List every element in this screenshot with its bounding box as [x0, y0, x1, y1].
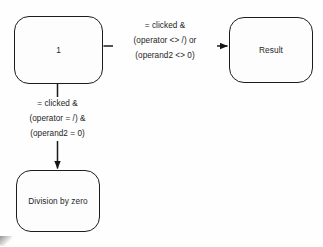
state-node-division-by-zero[interactable]: Division by zero	[16, 170, 100, 232]
state-node-result[interactable]: Result	[229, 17, 313, 83]
guard-to-result-line-1: = clicked &	[113, 19, 217, 34]
guard-to-result-line-3: (operand2 <> 0)	[113, 49, 217, 64]
division-by-zero-line-1: Division by	[28, 196, 69, 206]
state-node-start-label: 1	[56, 45, 61, 56]
state-node-result-label: Result	[259, 45, 283, 56]
guard-to-divzero-line-3: (operand2 = 0)	[6, 127, 109, 142]
transition-guard-to-result: = clicked & (operator <> /) or (operand2…	[113, 19, 217, 63]
transition-guard-to-division-by-zero: = clicked & (operator = /) & (operand2 =…	[6, 97, 109, 141]
guard-to-divzero-line-1: = clicked &	[6, 97, 109, 112]
division-by-zero-line-2: zero	[71, 196, 87, 206]
state-node-start[interactable]: 1	[14, 16, 103, 84]
guard-to-result-line-2: (operator <> /) or	[113, 34, 217, 49]
state-diagram-canvas: 1 Result Division by zero = clicked & (o…	[0, 0, 323, 247]
state-node-division-by-zero-label: Division by zero	[28, 196, 87, 207]
scan-edge-artifact	[0, 236, 12, 246]
guard-to-divzero-line-2: (operator = /) &	[6, 112, 109, 127]
